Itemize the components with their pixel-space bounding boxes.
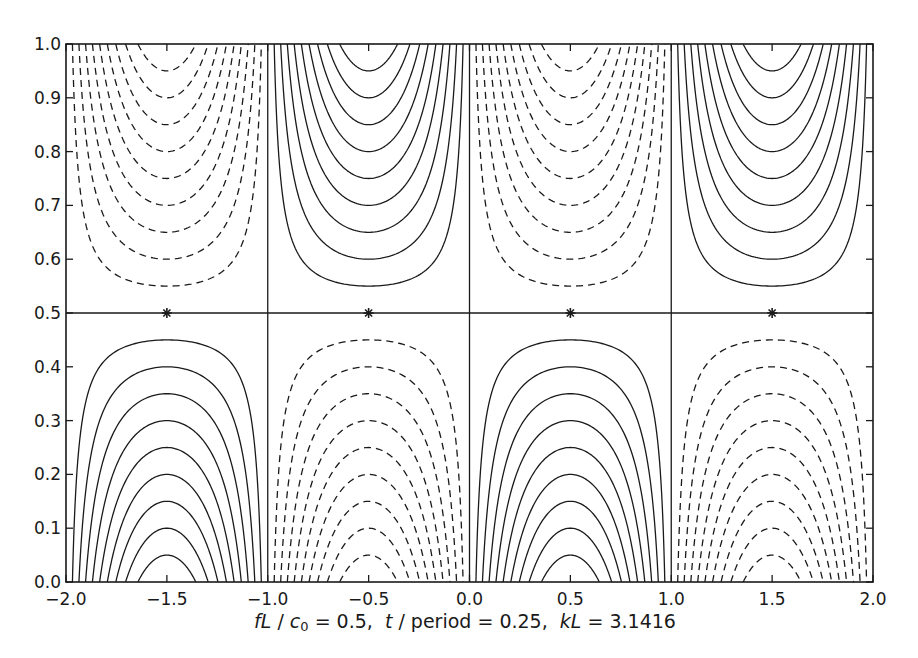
negative-contour <box>678 340 867 582</box>
star-marker <box>162 308 172 318</box>
y-tick-label: 0.2 <box>34 464 61 484</box>
negative-contour <box>519 44 621 125</box>
positive-contour <box>86 394 249 582</box>
negative-contour <box>691 394 854 582</box>
x-axis-label-part: kL <box>560 610 582 632</box>
x-tick-label: 0.0 <box>456 589 483 609</box>
x-axis-label-part: = 0.5, <box>309 610 385 632</box>
negative-contour <box>511 44 630 152</box>
positive-contour <box>72 340 261 582</box>
x-tick-label: −2.0 <box>45 589 86 609</box>
x-tick-label: −1.5 <box>146 589 187 609</box>
star-marker <box>767 308 777 318</box>
negative-contour <box>287 394 450 582</box>
y-tick-label: 0.9 <box>34 88 61 108</box>
negative-contour <box>721 501 823 582</box>
negative-contour <box>489 44 652 232</box>
x-axis-ticks: −2.0−1.5−1.0−0.50.00.51.01.52.0 <box>45 44 886 609</box>
y-tick-label: 0.6 <box>34 249 61 269</box>
positive-contour <box>100 448 234 583</box>
y-tick-label: 0.1 <box>34 518 61 538</box>
star-marker <box>364 308 374 318</box>
contour-chart: −2.0−1.5−1.0−0.50.00.51.01.52.0 0.00.10.… <box>0 0 918 658</box>
positive-contour <box>318 44 420 125</box>
positive-contour <box>301 44 436 179</box>
y-tick-label: 0.7 <box>34 195 61 215</box>
negative-contour <box>107 44 226 152</box>
positive-contour <box>705 44 839 179</box>
negative-contour <box>705 448 839 583</box>
y-tick-label: 0.3 <box>34 411 61 431</box>
x-axis-label-part: / period = 0.25, <box>392 610 559 632</box>
positive-contour <box>691 44 854 232</box>
x-tick-label: −1.0 <box>247 589 288 609</box>
negative-contour <box>476 44 665 286</box>
positive-contour <box>116 501 218 582</box>
y-tick-label: 0.8 <box>34 142 61 162</box>
x-axis-label-part: = 3.1416 <box>581 610 675 632</box>
positive-contour <box>489 394 652 582</box>
star-marker <box>565 308 575 318</box>
positive-contour <box>287 44 450 232</box>
negative-contour <box>309 474 428 582</box>
negative-contour <box>503 44 638 179</box>
positive-contour <box>476 340 665 582</box>
positive-contour <box>274 44 463 286</box>
negative-contour <box>713 474 832 582</box>
negative-contour <box>274 340 463 582</box>
negative-contour <box>72 44 261 286</box>
positive-contour <box>503 448 638 583</box>
negative-contour <box>86 44 249 232</box>
y-tick-label: 0.4 <box>34 357 61 377</box>
zero-contour-lines <box>66 44 873 582</box>
x-tick-label: −0.5 <box>348 589 389 609</box>
y-tick-label: 1.0 <box>34 34 61 54</box>
positive-contour <box>721 44 823 125</box>
x-axis-label-part: 0 <box>300 619 308 634</box>
x-tick-label: 1.0 <box>658 589 685 609</box>
y-tick-label: 0.5 <box>34 303 61 323</box>
negative-contour <box>100 44 234 179</box>
negative-contour <box>301 448 436 583</box>
x-tick-label: 2.0 <box>859 589 886 609</box>
x-axis-label-part: fL <box>254 610 271 632</box>
y-tick-label: 0.0 <box>34 572 61 592</box>
negative-contour <box>318 501 420 582</box>
x-tick-label: 0.5 <box>557 589 584 609</box>
x-tick-label: 1.5 <box>759 589 786 609</box>
x-axis-label: fL / c0 = 0.5, t / period = 0.25, kL = 3… <box>0 610 918 634</box>
negative-contour <box>116 44 218 125</box>
x-axis-label-part: / <box>271 610 289 632</box>
x-axis-label-part: c <box>290 610 300 632</box>
positive-contour <box>519 501 621 582</box>
positive-contour <box>678 44 867 286</box>
